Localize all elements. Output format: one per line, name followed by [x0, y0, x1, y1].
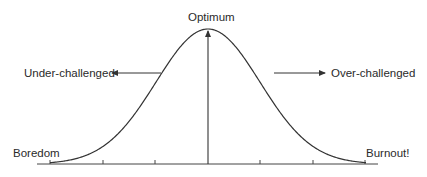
- optimum-label: Optimum: [188, 12, 235, 24]
- bell-curve-diagram: Optimum Under-challenged Over-challenged…: [0, 0, 427, 177]
- burnout-label: Burnout!: [366, 148, 409, 160]
- diagram-canvas: [0, 0, 427, 177]
- boredom-label: Boredom: [13, 148, 60, 160]
- under-challenged-label: Under-challenged: [24, 68, 115, 80]
- over-challenged-label: Over-challenged: [331, 68, 415, 80]
